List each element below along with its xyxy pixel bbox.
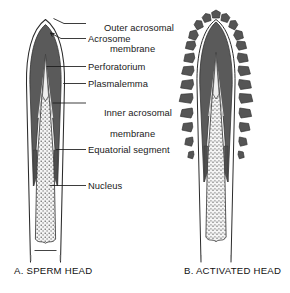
label-outer-acrosomal-membrane-line1: Outer acrosomal xyxy=(104,22,174,33)
label-perforatorium: Perforatorium xyxy=(88,62,145,73)
label-acrosome: Acrosome xyxy=(88,34,131,45)
label-layer: Outer acrosomal membrane Acrosome Perfor… xyxy=(0,0,290,293)
caption-panel-a: A. SPERM HEAD xyxy=(14,265,92,276)
figure-root: Outer acrosomal membrane Acrosome Perfor… xyxy=(0,0,290,293)
label-nucleus: Nucleus xyxy=(88,181,122,192)
label-inner-acrosomal-membrane-line1: Inner acrosomal xyxy=(104,107,172,118)
label-plasmalemma: Plasmalemma xyxy=(88,79,148,90)
label-inner-acrosomal-membrane-line2: membrane xyxy=(104,129,155,140)
label-equatorial-segment: Equatorial segment xyxy=(88,145,170,156)
label-outer-acrosomal-membrane-line2: membrane xyxy=(104,44,155,55)
caption-panel-b: B. ACTIVATED HEAD xyxy=(184,265,281,276)
label-inner-acrosomal-membrane: Inner acrosomal membrane xyxy=(88,98,172,151)
